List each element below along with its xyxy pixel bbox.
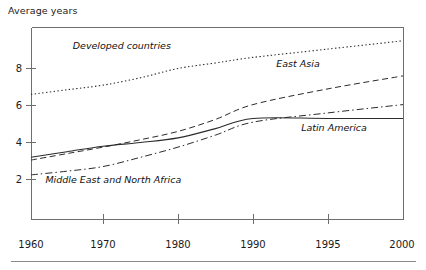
y-tick-label-4: 4	[16, 137, 22, 148]
series-label-east-asia: East Asia	[276, 58, 320, 69]
series-label-latin-america: Latin America	[301, 122, 367, 133]
x-tick-label-2000: 2000	[389, 239, 414, 250]
chart-figure: Average years 8 6 4 2 1960 1970 1980 199…	[0, 0, 426, 270]
x-tick-label-1960: 1960	[18, 239, 43, 250]
series-line-middle-east-north-africa	[31, 105, 403, 175]
x-tick-label-1995: 1995	[315, 239, 340, 250]
y-tick-label-2: 2	[16, 174, 22, 185]
x-tick-label-1970: 1970	[90, 239, 115, 250]
series-label-developed-countries: Developed countries	[73, 40, 171, 51]
x-tick-label-1990: 1990	[240, 239, 265, 250]
y-tick-label-8: 8	[16, 63, 22, 74]
y-tick-label-6: 6	[16, 100, 22, 111]
x-tick-label-1980: 1980	[165, 239, 190, 250]
series-label-middle-east-north-africa: Middle East and North Africa	[45, 174, 181, 185]
line-chart-svg: 8 6 4 2 1960 1970 1980 1990 1995 2000 De…	[0, 0, 426, 270]
